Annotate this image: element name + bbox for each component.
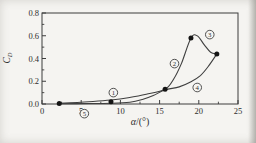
data-point-marker	[57, 101, 62, 106]
segment-label-digit-5: 5	[83, 110, 87, 117]
curve-increasing-alpha-branch	[59, 35, 217, 104]
data-point-marker	[108, 99, 113, 104]
y-tick-label: 0.4	[28, 54, 39, 64]
x-tick-label: 15	[155, 106, 164, 116]
x-tick-label: 0	[40, 106, 44, 116]
x-axis-label: α/(°)	[131, 116, 150, 128]
data-point-marker	[188, 36, 193, 41]
x-tick-label: 20	[195, 106, 204, 116]
segment-label-digit-1: 1	[112, 89, 115, 96]
y-tick-label: 0.6	[28, 31, 39, 41]
segment-label-digit-4: 4	[196, 84, 200, 91]
y-axis-label: CD	[2, 52, 13, 63]
data-point-marker	[214, 51, 219, 56]
plot-frame	[42, 13, 238, 104]
cd-vs-alpha-chart: 05101520250.00.20.40.60.812345α/(°)CD	[0, 0, 256, 143]
y-tick-label: 0.0	[28, 99, 39, 109]
x-tick-label: 10	[116, 106, 125, 116]
drag-coefficient-figure: 05101520250.00.20.40.60.812345α/(°)CD	[0, 0, 256, 143]
data-point-marker	[163, 87, 168, 92]
x-tick-label: 25	[234, 106, 243, 116]
segment-label-digit-3: 3	[208, 31, 212, 38]
y-tick-label: 0.2	[28, 76, 39, 86]
y-tick-label: 0.8	[28, 8, 39, 18]
segment-label-digit-2: 2	[173, 60, 177, 67]
